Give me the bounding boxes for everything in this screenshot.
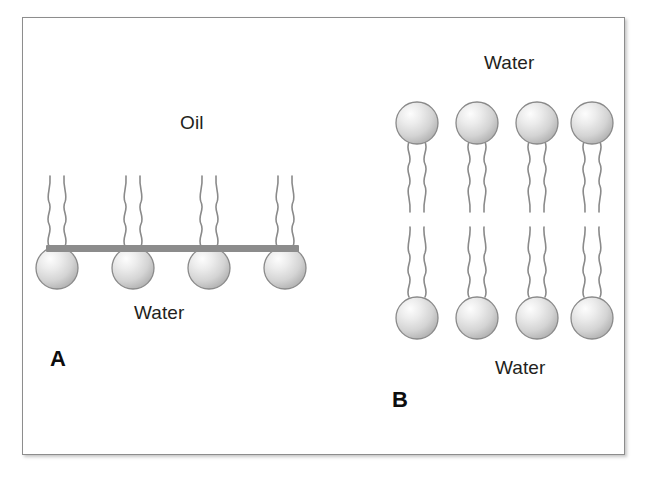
lipid-head (396, 297, 438, 339)
lipid-upper-leaflet-3 (515, 102, 559, 222)
oil-water-interface-bar (46, 245, 299, 252)
lipid-monolayer-1 (35, 170, 79, 290)
figure-canvas: Oil (0, 0, 652, 481)
lipid-upper-leaflet-1 (395, 102, 439, 222)
lipid-tail (140, 176, 142, 246)
lipid-tail (583, 227, 585, 297)
lipid-tail (468, 142, 470, 212)
lipid-tail (216, 176, 218, 246)
lipid-lower-leaflet-3 (515, 224, 559, 344)
lipid-head (456, 102, 498, 144)
lipid-tail (599, 142, 601, 212)
lipid-head (188, 247, 230, 289)
lipid-head (516, 297, 558, 339)
lipid-head (456, 297, 498, 339)
lipid-head (264, 247, 306, 289)
lipid-monolayer-2 (111, 170, 155, 290)
lipid-tail (64, 176, 66, 246)
lipid-lower-leaflet-1 (395, 224, 439, 344)
lipid-tail (408, 227, 410, 297)
lipid-tail (484, 142, 486, 212)
lipid-head (571, 297, 613, 339)
lipid-tail (528, 142, 530, 212)
panel-b-letter: B (392, 389, 408, 411)
lipid-tail (424, 227, 426, 297)
lipid-tail (48, 176, 50, 246)
lipid-monolayer-3 (187, 170, 231, 290)
lipid-tail (468, 227, 470, 297)
lipid-lower-leaflet-2 (455, 224, 499, 344)
lipid-head (36, 247, 78, 289)
lipid-tail (276, 176, 278, 246)
panel-a-water-label: Water (134, 303, 184, 322)
lipid-tail (544, 227, 546, 297)
lipid-tail (292, 176, 294, 246)
lipid-tail (408, 142, 410, 212)
lipid-lower-leaflet-4 (570, 224, 614, 344)
lipid-monolayer-4 (263, 170, 307, 290)
lipid-upper-leaflet-2 (455, 102, 499, 222)
lipid-head (112, 247, 154, 289)
lipid-tail (484, 227, 486, 297)
lipid-tail (528, 227, 530, 297)
lipid-head (396, 102, 438, 144)
panel-a-oil-label: Oil (180, 113, 204, 132)
lipid-tail (544, 142, 546, 212)
lipid-upper-leaflet-4 (570, 102, 614, 222)
lipid-tail (599, 227, 601, 297)
lipid-tail (424, 142, 426, 212)
panel-a-letter: A (50, 348, 66, 370)
panel-b-water-label-bottom: Water (495, 358, 545, 377)
lipid-tail (583, 142, 585, 212)
lipid-head (516, 102, 558, 144)
lipid-head (571, 102, 613, 144)
panel-b-water-label-top: Water (484, 53, 534, 72)
lipid-tail (200, 176, 202, 246)
lipid-tail (124, 176, 126, 246)
